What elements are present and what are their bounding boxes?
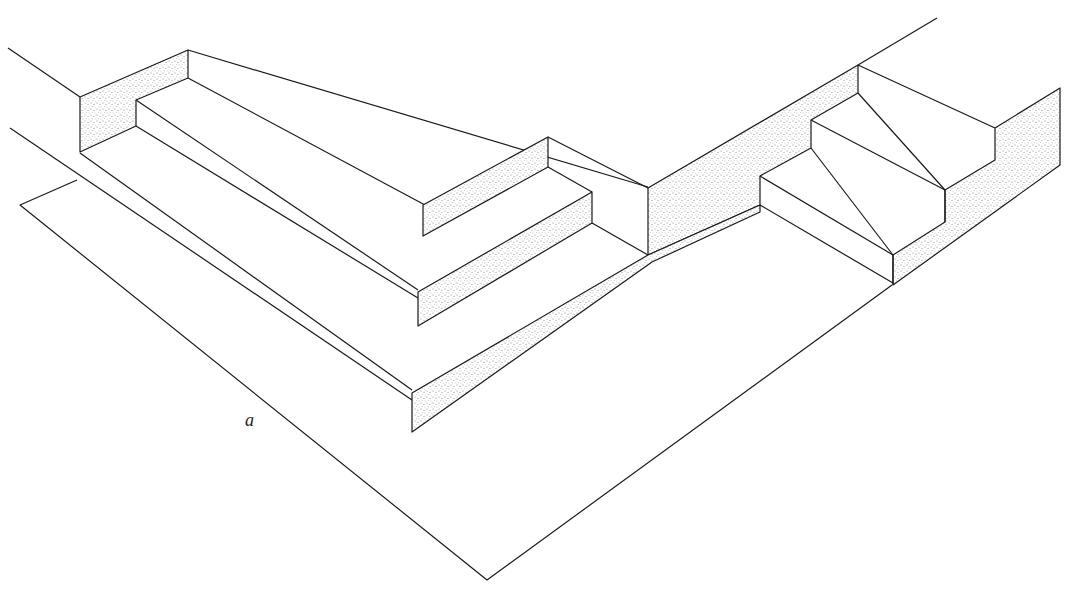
step-riser-1: [423, 137, 648, 236]
upper-terrace-lines: [8, 48, 412, 400]
corner-wall-back: [80, 50, 648, 298]
step-riser-3: [412, 205, 760, 432]
figure-label: a: [245, 410, 254, 431]
middle-wall: [648, 18, 937, 255]
isometric-steps-drawing: [0, 0, 1073, 604]
